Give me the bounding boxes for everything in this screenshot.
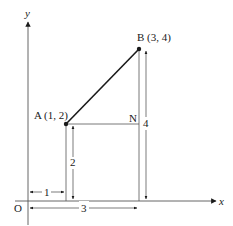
point-b bbox=[137, 47, 141, 51]
x-axis-label: x bbox=[218, 195, 224, 207]
dimension-horizontal-1: 1 bbox=[30, 185, 64, 198]
dimension-3-label: 3 bbox=[81, 202, 87, 214]
point-a-label: A (1, 2) bbox=[34, 109, 68, 122]
y-axis-label: y bbox=[24, 7, 30, 19]
origin-label: O bbox=[14, 202, 22, 214]
dimension-horizontal-3: 3 bbox=[30, 201, 137, 214]
point-n-label: N bbox=[129, 112, 137, 124]
dimension-4-label: 4 bbox=[143, 117, 149, 129]
dimension-vertical-4: 4 bbox=[141, 51, 151, 199]
point-b-label: B (3, 4) bbox=[137, 31, 171, 44]
point-a bbox=[64, 122, 68, 126]
dimension-1-label: 1 bbox=[44, 186, 50, 198]
dimension-2-label: 2 bbox=[70, 156, 76, 168]
coordinate-diagram: y x O A (1, 2) B (3, 4) N 2 4 1 3 bbox=[0, 0, 233, 226]
dimension-vertical-2: 2 bbox=[68, 126, 78, 199]
